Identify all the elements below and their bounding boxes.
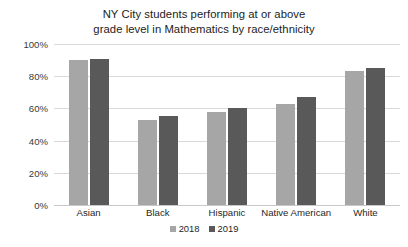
legend-label: 2018 xyxy=(179,224,200,234)
bar-black-2019 xyxy=(159,116,178,205)
bar-asian-2018 xyxy=(69,60,88,205)
chart-legend: 20182019 xyxy=(0,224,408,234)
y-axis: 0%20%40%60%80%100% xyxy=(0,44,48,205)
bar-hispanic-2018 xyxy=(207,112,226,205)
y-axis-tick-label: 60% xyxy=(0,103,48,114)
x-axis-tick-label: White xyxy=(353,207,378,218)
x-axis: AsianBlackHispanicNative AmericanWhite xyxy=(54,207,400,223)
x-axis-tick-label: Hispanic xyxy=(209,207,246,218)
legend-swatch-icon xyxy=(209,226,215,232)
bar-group xyxy=(123,44,192,205)
bar-native-american-2019 xyxy=(297,97,316,205)
bar-asian-2019 xyxy=(90,59,109,206)
bar-white-2018 xyxy=(345,71,364,205)
y-axis-tick-label: 40% xyxy=(0,135,48,146)
legend-item-2018[interactable]: 2018 xyxy=(170,224,200,234)
chart-title-line-1: NY City students performing at or above xyxy=(0,7,408,22)
legend-label: 2019 xyxy=(218,224,239,234)
bar-white-2019 xyxy=(366,68,385,205)
bar-black-2018 xyxy=(138,120,157,205)
legend-swatch-icon xyxy=(170,226,176,232)
bar-group xyxy=(331,44,400,205)
y-axis-tick-label: 80% xyxy=(0,71,48,82)
bar-group xyxy=(262,44,331,205)
x-axis-tick-label: Black xyxy=(146,207,169,218)
bar-group xyxy=(192,44,261,205)
bar-chart: NY City students performing at or above … xyxy=(0,0,408,247)
chart-title: NY City students performing at or above … xyxy=(0,7,408,36)
y-axis-tick-label: 0% xyxy=(0,200,48,211)
bar-native-american-2018 xyxy=(276,104,295,205)
bar-group xyxy=(54,44,123,205)
x-axis-tick-label: Asian xyxy=(77,207,101,218)
y-axis-tick-label: 20% xyxy=(0,167,48,178)
plot-area xyxy=(54,44,400,205)
y-axis-tick-label: 100% xyxy=(0,39,48,50)
chart-title-line-2: grade level in Mathematics by race/ethni… xyxy=(0,22,408,37)
x-axis-tick-label: Native American xyxy=(261,207,331,218)
legend-item-2019[interactable]: 2019 xyxy=(209,224,239,234)
bar-hispanic-2019 xyxy=(228,108,247,205)
gridline xyxy=(54,205,400,206)
